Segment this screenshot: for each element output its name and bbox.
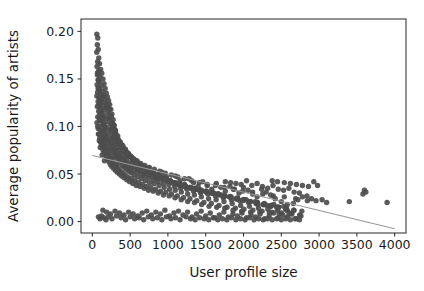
scatter-point	[276, 187, 281, 192]
scatter-point	[275, 206, 280, 211]
scatter-point	[253, 201, 258, 206]
scatter-point	[96, 86, 101, 91]
scatter-point	[172, 180, 177, 185]
scatter-point	[192, 186, 197, 191]
scatter-point	[161, 192, 166, 197]
scatter-point	[295, 197, 300, 202]
y-tick-label: 0.15	[46, 71, 74, 86]
scatter-point	[240, 198, 245, 203]
scatter-point	[206, 204, 211, 209]
scatter-point	[245, 188, 250, 193]
scatter-point	[292, 216, 297, 221]
scatter-point	[306, 184, 311, 189]
scatter-point	[288, 181, 293, 186]
scatter-point	[95, 35, 100, 40]
scatter-point	[101, 93, 106, 98]
scatter-point	[288, 217, 293, 222]
scatter-point	[109, 216, 114, 221]
scatter-point	[282, 180, 287, 185]
scatter-point	[286, 186, 291, 191]
scatter-point	[233, 181, 238, 186]
scatter-point	[363, 189, 368, 194]
scatter-point	[227, 194, 232, 199]
scatter-point	[257, 211, 262, 216]
scatter-point	[282, 194, 287, 199]
scatter-point	[123, 217, 128, 222]
x-tick-label: 2000	[228, 237, 260, 252]
x-tick-label: 3500	[341, 237, 373, 252]
scatter-point	[98, 107, 103, 112]
scatter-point	[100, 114, 105, 119]
scatter-point	[297, 217, 302, 222]
scatter-point	[229, 201, 234, 206]
scatter-point	[300, 183, 305, 188]
y-tick-label: 0.20	[46, 24, 74, 39]
scatter-point	[319, 197, 324, 202]
scatter-point	[177, 181, 182, 186]
scatter-point	[220, 216, 225, 221]
scatter-point	[188, 216, 193, 221]
scatter-point	[279, 217, 284, 222]
scatter-point	[291, 189, 296, 194]
scatter-point	[166, 193, 171, 198]
scatter-point	[132, 216, 137, 221]
scatter-point	[299, 208, 304, 213]
scatter-point	[197, 215, 202, 220]
scatter-point	[239, 210, 244, 215]
scatter-point	[223, 188, 228, 193]
scatter-point	[115, 133, 120, 138]
scatter-point	[150, 216, 155, 221]
scatter-point	[168, 216, 173, 221]
scatter-point	[199, 194, 204, 199]
scatter-point	[265, 216, 270, 221]
scatter-point	[270, 217, 275, 222]
scatter-point	[144, 208, 149, 213]
scatter-point	[294, 182, 299, 187]
scatter-point	[213, 197, 218, 202]
scatter-point	[268, 204, 273, 209]
scatter-point	[118, 156, 123, 161]
scatter-point	[199, 202, 204, 207]
y-tick-label: 0.00	[46, 214, 74, 229]
scatter-point	[185, 191, 190, 196]
scatter-point	[260, 217, 265, 222]
scatter-point	[238, 216, 243, 221]
scatter-point	[209, 190, 214, 195]
scatter-point	[254, 181, 259, 186]
scatter-point	[167, 178, 172, 183]
scatter-point	[162, 207, 167, 212]
scatter-point	[187, 185, 192, 190]
scatter-point	[159, 217, 164, 222]
scatter-point	[300, 194, 305, 199]
scatter-point	[270, 183, 275, 188]
scatter-point	[214, 205, 219, 210]
scatter-point	[259, 187, 264, 192]
scatter-point	[198, 188, 203, 193]
scatter-point	[172, 195, 177, 200]
x-tick-label: 2500	[265, 237, 297, 252]
scatter-point	[111, 122, 116, 127]
scatter-point	[105, 101, 110, 106]
scatter-point	[215, 217, 220, 222]
scatter-point	[208, 210, 213, 215]
scatter-point	[347, 199, 352, 204]
scatter-point	[101, 143, 106, 148]
scatter-point	[274, 216, 279, 221]
scatter-point	[192, 200, 197, 205]
scatter-point	[96, 78, 101, 83]
scatter-point	[283, 216, 288, 221]
scatter-point	[102, 133, 107, 138]
scatter-point	[260, 202, 265, 207]
scatter-point	[98, 99, 103, 104]
scatter-point	[221, 209, 226, 214]
scatter-point	[141, 217, 146, 222]
scatter-point	[107, 107, 112, 112]
y-axis-title: Average popularity of artists	[5, 30, 21, 222]
scatter-point	[95, 71, 100, 76]
scatter-point	[114, 163, 119, 168]
scatter-point	[185, 199, 190, 204]
scatter-point	[249, 183, 254, 188]
scatter-point	[109, 114, 114, 119]
scatter-point	[94, 50, 99, 55]
scatter-point	[102, 126, 107, 131]
